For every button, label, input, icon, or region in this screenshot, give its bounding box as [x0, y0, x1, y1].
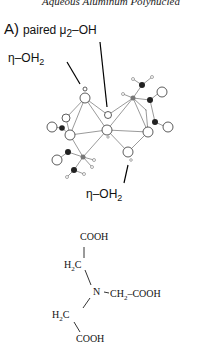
right-chain: CH2–COOH	[110, 288, 161, 302]
ch2-upper: H2C	[64, 259, 81, 273]
cooh-bottom: COOH	[76, 333, 104, 344]
cooh-top: COOH	[80, 231, 108, 242]
ch2-lower: H2C	[52, 309, 69, 323]
nitrogen-atom: N	[93, 286, 100, 297]
